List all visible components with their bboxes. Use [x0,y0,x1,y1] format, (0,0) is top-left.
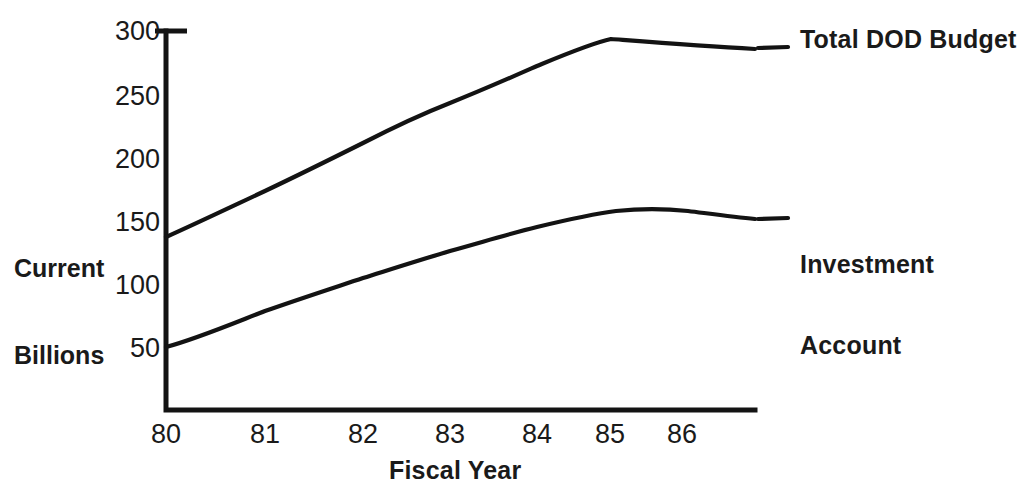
y-axis-title-line1: Current [14,254,106,283]
leader-line-total-dod-budget [758,47,788,48]
chart-axes [166,31,755,410]
series-line-total-dod-budget [166,39,755,237]
x-tick-label-82: 82 [335,420,391,449]
series-label-investment-account-line1: Investment [800,251,934,278]
series-line-investment-account [166,209,755,347]
x-tick-label-84: 84 [509,420,565,449]
x-tick-label-81: 81 [237,420,293,449]
y-axis-title: Current Billions [14,196,106,428]
series-label-total-dod-budget: Total DOD Budget [800,26,1017,53]
y-tick-label-150: 150 [104,208,160,237]
x-tick-label-83: 83 [422,420,478,449]
x-tick-label-80: 80 [138,420,194,449]
y-tick-label-200: 200 [104,145,160,174]
series-label-investment-account: Investment Account [800,197,934,413]
x-tick-label-86: 86 [654,420,710,449]
y-tick-label-300: 300 [104,17,160,46]
x-axis-title: Fiscal Year [389,457,521,484]
x-tick-label-85: 85 [582,420,638,449]
y-tick-label-250: 250 [104,82,160,111]
y-tick-label-50: 50 [104,334,160,363]
series-label-investment-account-line2: Account [800,332,934,359]
y-axis-title-line2: Billions [14,341,106,370]
leader-line-investment-account [758,218,788,219]
y-tick-label-100: 100 [104,271,160,300]
